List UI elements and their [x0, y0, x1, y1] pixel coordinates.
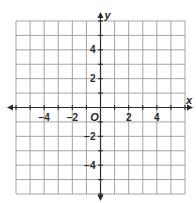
y-tick-label: −2	[84, 131, 96, 142]
origin-label: O	[90, 111, 99, 123]
x-tick-label: −4	[38, 112, 50, 123]
x-axis-left-arrow-icon	[7, 105, 13, 111]
x-axis-label: x	[185, 94, 193, 106]
y-axis-up-arrow-icon	[98, 12, 104, 18]
x-tick-label: 4	[154, 112, 160, 123]
y-tick-label: 2	[90, 73, 96, 84]
y-tick-label: −4	[84, 160, 96, 171]
coordinate-plane: −4−22442−2−4 x y O	[0, 0, 196, 203]
x-tick-label: 2	[126, 112, 132, 123]
y-axis-label: y	[104, 9, 112, 21]
y-axis-down-arrow-icon	[98, 195, 104, 201]
y-tick-label: 4	[90, 44, 96, 55]
axes	[7, 12, 193, 201]
x-tick-label: −2	[67, 112, 79, 123]
